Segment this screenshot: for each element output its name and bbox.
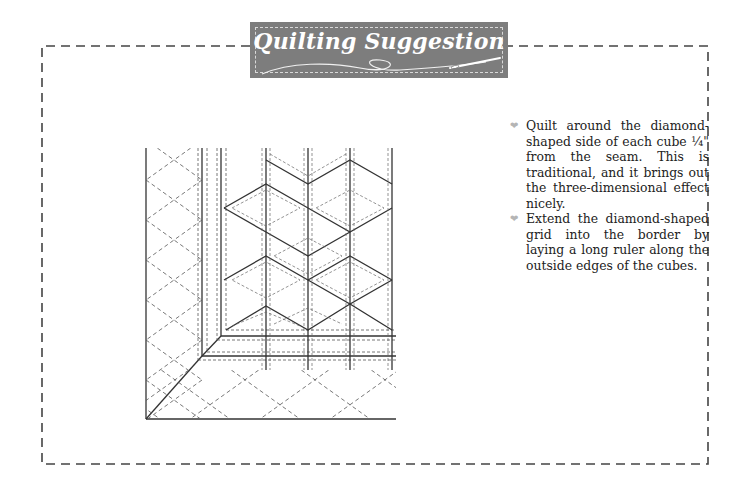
- tip-text: Extend the diamond-shaped grid into the …: [526, 211, 709, 273]
- tip-item: ❤ Extend the diamond-shaped grid into th…: [512, 211, 709, 273]
- tip-item: ❤ Quilt around the diamond-shaped side o…: [512, 118, 709, 211]
- quilt-illustration: [140, 140, 402, 425]
- heart-icon: ❤: [510, 211, 518, 227]
- needle-and-thread-icon: [250, 22, 508, 78]
- quilting-suggestion-banner: Quilting Suggestion: [250, 22, 508, 78]
- tip-text: Quilt around the diamond-shaped side of …: [526, 118, 709, 211]
- heart-icon: ❤: [510, 118, 518, 134]
- quilting-tips: ❤ Quilt around the diamond-shaped side o…: [512, 118, 709, 273]
